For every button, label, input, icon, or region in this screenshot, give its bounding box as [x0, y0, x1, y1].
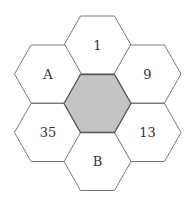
- hex-lower-right-label: 13: [139, 125, 156, 140]
- hex-lower-left-label: 35: [40, 125, 57, 140]
- hex-top-label: 1: [93, 38, 101, 53]
- hex-upper-right-label: 9: [143, 67, 151, 82]
- hexagon-diagram: 1 A 9 35 13 B: [0, 0, 191, 206]
- hex-bottom-label: B: [93, 154, 103, 169]
- hex-upper-left-label: A: [42, 67, 53, 82]
